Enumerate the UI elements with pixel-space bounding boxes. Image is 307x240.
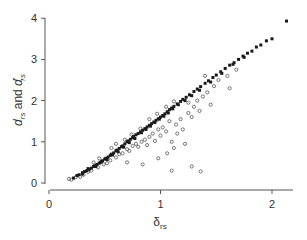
data-point (166, 152, 169, 155)
data-point (145, 128, 148, 131)
x-ticks: 012 (46, 190, 275, 210)
data-point (141, 163, 144, 166)
data-point (170, 140, 173, 143)
data-point (158, 118, 161, 121)
scatter-chart: 01234 012 δrs drs and d′rs (0, 0, 307, 240)
data-point (187, 111, 190, 114)
data-point (243, 56, 246, 59)
data-point (235, 68, 238, 71)
data-point (212, 85, 215, 88)
data-point (170, 169, 173, 172)
data-point (151, 132, 154, 135)
data-point (140, 140, 143, 143)
data-point (199, 170, 202, 173)
data-point (125, 161, 128, 164)
y-tick-label: 1 (31, 136, 37, 148)
data-point (94, 165, 97, 168)
data-point (184, 99, 187, 102)
data-point (153, 139, 156, 142)
x-axis-label: δrs (153, 215, 166, 231)
data-point (149, 125, 152, 128)
x-tick-label: 1 (157, 198, 163, 210)
data-point (78, 173, 81, 176)
data-point (285, 20, 288, 23)
data-point (206, 91, 209, 94)
x-tick-label: 2 (269, 198, 275, 210)
y-axis-label: drs and d′rs (11, 74, 27, 126)
data-point (157, 128, 160, 131)
data-point (98, 157, 101, 160)
y-tick-label: 2 (31, 95, 37, 107)
data-point (176, 132, 179, 135)
data-point (271, 37, 274, 40)
data-point (148, 118, 151, 121)
data-point (128, 141, 131, 144)
data-point (259, 43, 262, 46)
data-point (111, 153, 114, 156)
data-point (172, 146, 175, 149)
data-point (164, 105, 167, 108)
data-point (81, 172, 84, 175)
data-point (177, 103, 180, 106)
data-point (148, 135, 151, 138)
data-point (168, 120, 171, 123)
data-point (114, 142, 117, 145)
data-point (237, 58, 240, 61)
data-point (190, 165, 193, 168)
y-tick-label: 3 (31, 53, 37, 65)
y-tick-label: 0 (31, 177, 37, 189)
data-point (192, 90, 195, 93)
data-point (110, 146, 113, 149)
data-point (246, 52, 249, 55)
data-point (192, 105, 195, 108)
data-point (167, 111, 170, 114)
data-point (201, 95, 204, 98)
data-point (105, 158, 108, 161)
data-point (181, 128, 184, 131)
y-tick-label: 4 (31, 12, 37, 24)
data-point (190, 94, 193, 97)
data-point (146, 143, 149, 146)
y-axis: 01234 (31, 12, 45, 189)
data-point (250, 50, 253, 53)
y-ticks: 01234 (31, 12, 45, 189)
data-point (143, 138, 146, 141)
data-points (67, 20, 288, 182)
data-point (121, 152, 124, 155)
data-point (133, 137, 136, 140)
data-point (159, 134, 162, 137)
data-point (231, 63, 234, 66)
data-point (196, 99, 199, 102)
data-point (220, 72, 223, 75)
data-point (215, 74, 218, 77)
data-point (156, 112, 159, 115)
data-point (134, 142, 137, 145)
data-point (105, 162, 108, 165)
data-point (209, 103, 212, 106)
data-point (190, 115, 193, 118)
data-point (109, 159, 112, 162)
data-point (72, 177, 75, 180)
data-point (228, 64, 231, 67)
data-point (114, 156, 117, 159)
x-tick-label: 0 (46, 198, 52, 210)
data-point (204, 74, 207, 77)
x-axis: 012 (46, 190, 293, 210)
data-point (157, 157, 160, 160)
data-point (172, 100, 175, 103)
data-point (211, 76, 214, 79)
data-point (171, 107, 174, 110)
data-point (198, 109, 201, 112)
data-point (153, 121, 156, 124)
data-point (198, 89, 201, 92)
data-point (140, 131, 143, 134)
data-point (217, 78, 220, 81)
data-point (131, 144, 134, 147)
data-point (209, 81, 212, 84)
data-point (224, 67, 227, 70)
data-point (162, 115, 165, 118)
data-point (185, 96, 188, 99)
data-point (183, 142, 186, 145)
data-point (100, 160, 103, 163)
data-point (122, 146, 125, 149)
